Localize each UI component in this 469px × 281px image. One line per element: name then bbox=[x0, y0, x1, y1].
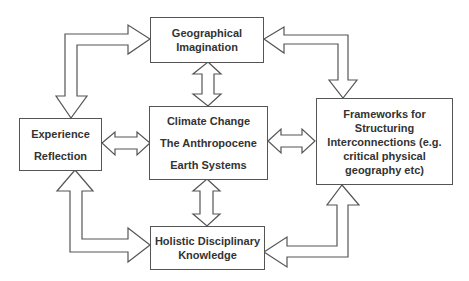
elbow-arrow-top-left-icon bbox=[56, 25, 150, 118]
node-geographical-imagination: Geographical Imagination bbox=[150, 17, 264, 63]
double-arrow-left-center-icon bbox=[102, 132, 150, 155]
diagram-canvas: Geographical Imagination Climate Change … bbox=[0, 0, 469, 281]
node-text-line: Reflection bbox=[34, 149, 87, 163]
node-text-line: Experience bbox=[31, 127, 90, 141]
node-text-line: Structuring bbox=[355, 121, 414, 135]
node-frameworks: Frameworks for Structuring Interconnecti… bbox=[316, 98, 453, 185]
node-experience-reflection: Experience Reflection bbox=[19, 118, 102, 171]
elbow-arrow-top-right-icon bbox=[264, 27, 357, 98]
node-text-line: The Anthropocene bbox=[160, 136, 257, 150]
double-arrow-center-bottom-icon bbox=[193, 179, 220, 226]
elbow-arrow-bottom-left-icon bbox=[57, 170, 150, 262]
elbow-arrow-bottom-right-icon bbox=[264, 185, 359, 267]
double-arrow-center-right-icon bbox=[268, 129, 315, 153]
node-climate-change: Climate Change The Anthropocene Earth Sy… bbox=[149, 106, 268, 180]
node-text-line: Geographical bbox=[172, 26, 242, 40]
node-text-line: critical physical bbox=[343, 149, 426, 163]
node-text-line: Imagination bbox=[176, 40, 238, 54]
node-text-line: geography etc) bbox=[345, 163, 424, 177]
node-text-line: Interconnections (e.g. bbox=[327, 135, 441, 149]
node-text-line: Climate Change bbox=[167, 114, 250, 128]
node-text-line: Holistic Disciplinary bbox=[155, 234, 260, 248]
double-arrow-top-center-icon bbox=[193, 62, 221, 106]
node-holistic-knowledge: Holistic Disciplinary Knowledge bbox=[150, 226, 265, 270]
node-text-line: Earth Systems bbox=[170, 158, 246, 172]
node-text-line: Knowledge bbox=[178, 248, 237, 262]
node-text-line: Frameworks for bbox=[343, 107, 426, 121]
